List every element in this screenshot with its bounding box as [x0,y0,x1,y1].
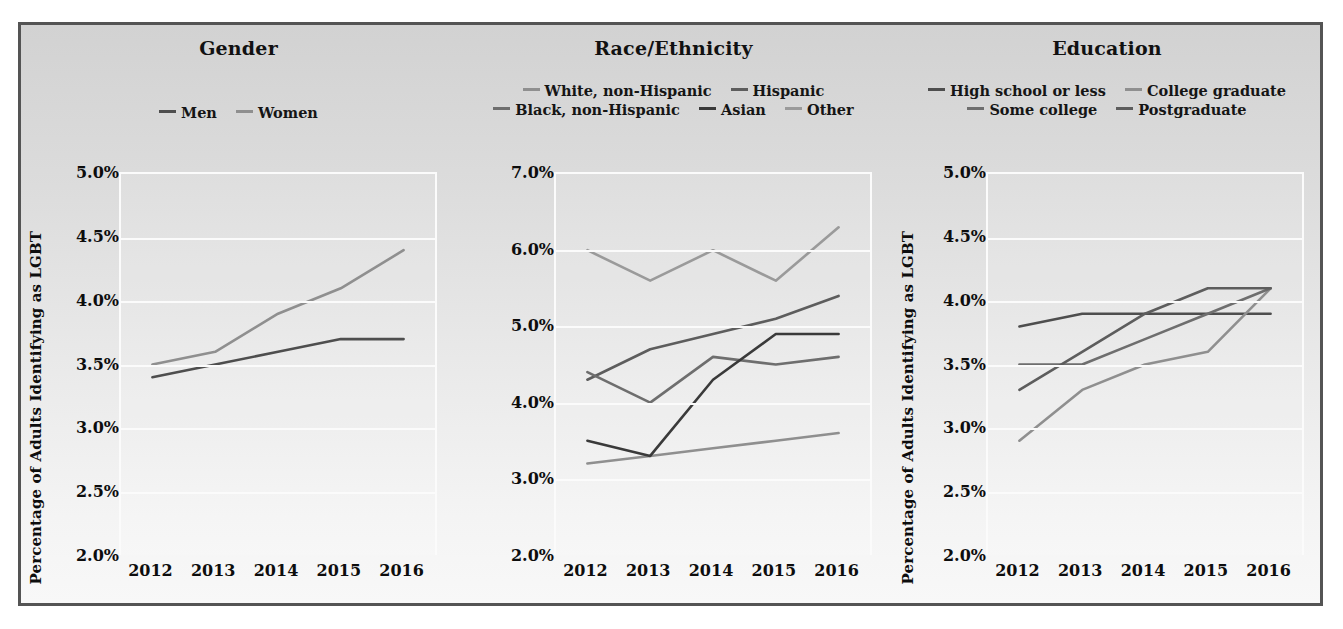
x-ticks-gender: 20122013201420152016 [57,555,437,585]
legend-swatch-icon [159,110,176,113]
x-tick-label: 2014 [689,561,734,580]
x-tick-label: 2015 [752,561,797,580]
legend-label: College graduate [1147,83,1286,100]
legend-item-asian[interactable]: Asian [699,100,766,119]
gridline [121,365,435,367]
legend-label: Other [807,102,854,119]
panel-title-education: Education [891,37,1323,59]
x-tick-label: 2012 [128,561,173,580]
y-tick-label: 4.0% [943,290,986,309]
legend-label: Women [258,105,318,122]
x-ticks-race: 20122013201420152016 [492,555,872,585]
series-line [1019,314,1270,327]
axes-education [986,172,1304,555]
y-tick-label: 5.0% [943,163,986,182]
legend-row: Some college Postgraduate [891,100,1323,119]
gridline [988,428,1302,430]
y-tick-label: 5.0% [76,163,119,182]
panel-education: Education High school or less College gr… [891,25,1323,603]
x-tick-label: 2016 [379,561,424,580]
y-tick-label: 2.5% [943,482,986,501]
legend-swatch-icon [493,107,510,110]
y-tick-label: 3.5% [943,354,986,373]
y-tick-label: 4.0% [511,392,554,411]
legend-label: Some college [989,102,1097,119]
x-tick-label: 2012 [563,561,608,580]
x-tick-label: 2015 [1184,561,1229,580]
axes-gender [119,172,437,555]
legend-swatch-icon [785,107,802,110]
legend-swatch-icon [699,107,716,110]
legend-item-white-non-hispanic[interactable]: White, non-Hispanic [523,81,712,100]
legend-label: Hispanic [753,83,825,100]
x-tick-label: 2016 [1246,561,1291,580]
plot-area-education: 5.0%4.5%4.0%3.5%3.0%2.5%2.0% 20122013201… [924,168,1304,583]
y-tick-label: 6.0% [511,239,554,258]
gridline [988,492,1302,494]
x-tick-label: 2014 [1121,561,1166,580]
legend-row: High school or less College graduate [891,81,1323,100]
legend-swatch-icon [967,107,984,110]
gridline [988,365,1302,367]
gridline [121,301,435,303]
legend-label: Men [181,105,217,122]
figure-root: Gender Men Women Percentage of Adults Id… [0,0,1343,629]
legend-item-high-school-or-less[interactable]: High school or less [928,81,1106,100]
legend-swatch-icon [1125,88,1142,91]
y-axis-label-gender: Percentage of Adults Identifying as LGBT [27,231,45,584]
legend-item-hispanic[interactable]: Hispanic [731,81,825,100]
gridline [121,428,435,430]
legend-item-postgraduate[interactable]: Postgraduate [1116,100,1246,119]
x-ticks-education: 20122013201420152016 [924,555,1304,585]
legend-race: White, non-Hispanic Hispanic Black, non-… [456,81,891,119]
y-ticks-race: 7.0%6.0%5.0%4.0%3.0%2.0% [492,168,554,583]
y-ticks-gender: 5.0%4.5%4.0%3.5%3.0%2.5%2.0% [57,168,119,583]
legend-swatch-icon [523,88,540,91]
series-line [587,227,838,280]
panel-title-gender: Gender [21,37,456,59]
legend-row: Black, non-Hispanic Asian Other [456,100,891,119]
y-tick-label: 4.5% [943,226,986,245]
axes-race [554,172,872,555]
legend-label: High school or less [950,83,1106,100]
legend-label: Postgraduate [1138,102,1246,119]
legend-label: Black, non-Hispanic [515,102,680,119]
legend-item-black-non-hispanic[interactable]: Black, non-Hispanic [493,100,680,119]
y-tick-label: 7.0% [511,163,554,182]
panel-gender: Gender Men Women Percentage of Adults Id… [21,25,456,603]
legend-item-some-college[interactable]: Some college [967,100,1097,119]
y-tick-label: 2.5% [76,482,119,501]
gridline [121,492,435,494]
x-tick-label: 2013 [1058,561,1103,580]
legend-item-men[interactable]: Men [159,103,217,122]
gridline [556,403,870,405]
x-tick-label: 2013 [191,561,236,580]
legend-swatch-icon [928,88,945,91]
plot-area-race: 7.0%6.0%5.0%4.0%3.0%2.0% 201220132014201… [492,168,872,583]
legend-label: Asian [721,102,766,119]
legend-item-college-graduate[interactable]: College graduate [1125,81,1286,100]
series-svg-race [556,174,870,555]
legend-item-women[interactable]: Women [236,103,318,122]
panel-race-ethnicity: Race/Ethnicity White, non-Hispanic Hispa… [456,25,891,603]
plot-area-gender: 5.0%4.5%4.0%3.5%3.0%2.5%2.0% 20122013201… [57,168,437,583]
gridline [556,250,870,252]
panel-title-race: Race/Ethnicity [456,37,891,59]
figure-frame: Gender Men Women Percentage of Adults Id… [18,22,1323,606]
legend-swatch-icon [731,88,748,91]
legend-label: White, non-Hispanic [545,83,712,100]
legend-item-other[interactable]: Other [785,100,854,119]
legend-swatch-icon [1116,107,1133,110]
y-tick-label: 3.0% [511,469,554,488]
x-tick-label: 2015 [317,561,362,580]
y-tick-label: 4.5% [76,226,119,245]
x-tick-label: 2012 [995,561,1040,580]
legend-row: Men Women [21,103,456,122]
y-tick-label: 4.0% [76,290,119,309]
gridline [556,326,870,328]
y-tick-label: 3.0% [943,418,986,437]
y-tick-label: 3.5% [76,354,119,373]
x-tick-label: 2014 [254,561,299,580]
legend-row: White, non-Hispanic Hispanic [456,81,891,100]
legend-gender: Men Women [21,103,456,122]
